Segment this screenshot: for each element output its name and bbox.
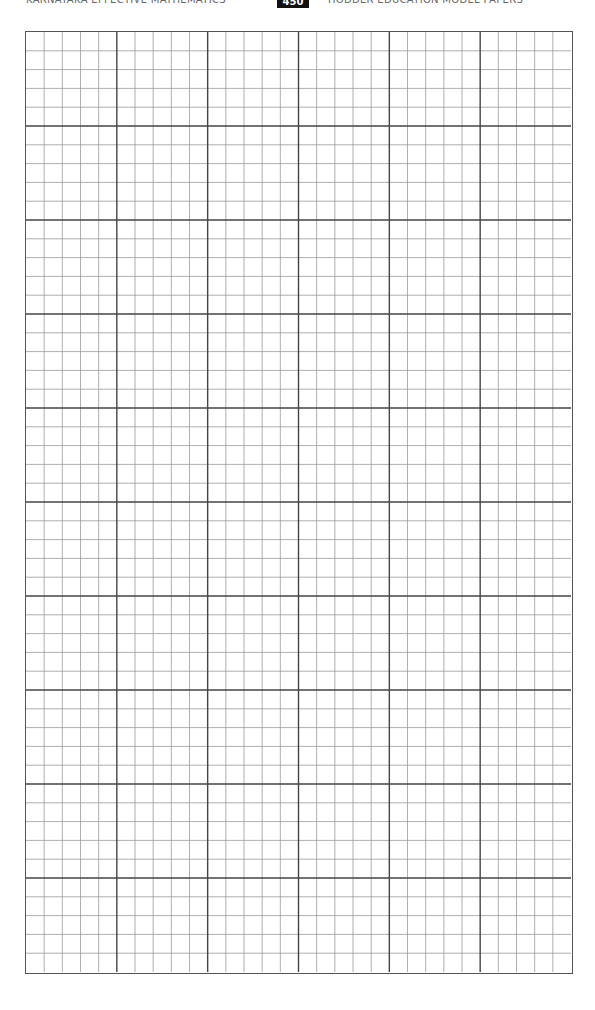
page-number: 450 [277, 0, 309, 8]
graph-paper-grid [25, 31, 573, 974]
section-title: HODDER EDUCATION MODEL PAPERS [328, 0, 523, 5]
book-title: KARNATAKA EFFECTIVE MATHEMATICS [26, 0, 226, 5]
page-header: KARNATAKA EFFECTIVE MATHEMATICS 450 HODD… [0, 0, 595, 8]
grid-lines [26, 32, 574, 975]
